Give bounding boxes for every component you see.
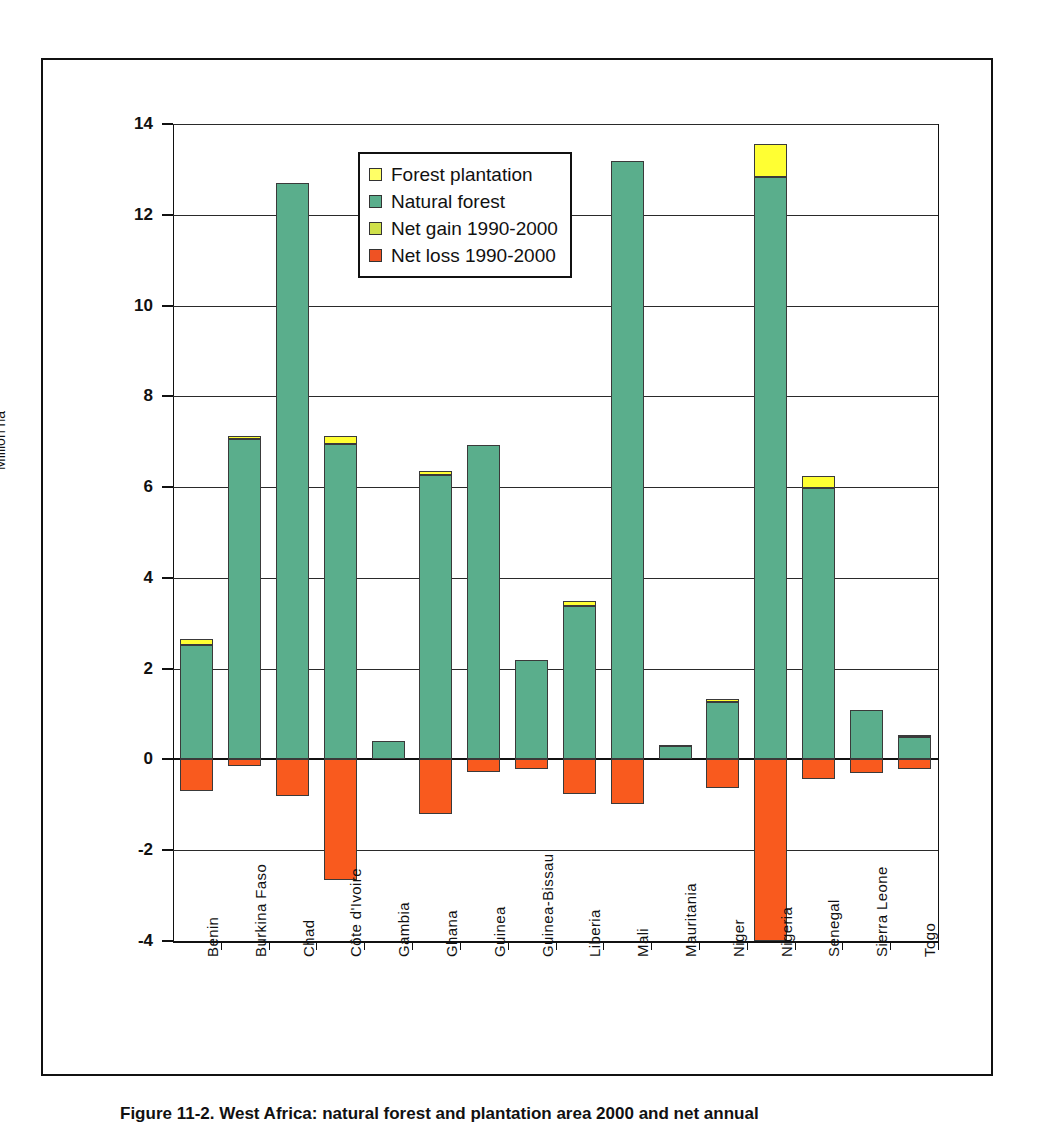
plot-right-border bbox=[938, 124, 939, 941]
x-tick-label: Ghana bbox=[443, 910, 460, 957]
bar-segment-natural-forest bbox=[372, 741, 405, 759]
y-tick-label: 8 bbox=[111, 387, 153, 404]
bar-segment-natural-forest bbox=[467, 445, 500, 760]
y-tick-label: 6 bbox=[111, 478, 153, 495]
legend-swatch-icon bbox=[369, 249, 382, 262]
bar-segment-net-loss bbox=[515, 759, 548, 768]
y-tick-label: 2 bbox=[111, 660, 153, 677]
x-tick-label: Benin bbox=[204, 917, 221, 957]
y-tick-mark bbox=[162, 395, 173, 397]
y-tick-label: 4 bbox=[111, 569, 153, 586]
x-tick-label: Liberia bbox=[586, 909, 603, 957]
bar-segment-natural-forest bbox=[419, 475, 452, 760]
x-tick-label: Côte d'Ivoire bbox=[347, 868, 364, 957]
y-tick-mark bbox=[162, 668, 173, 670]
bar-segment-net-loss bbox=[419, 759, 452, 813]
bar-segment-net-loss bbox=[276, 759, 309, 795]
bar-segment-net-loss bbox=[802, 759, 835, 779]
bar-segment-net-loss bbox=[898, 759, 931, 769]
bar-segment-net-loss bbox=[850, 759, 883, 772]
bar-segment-forest-plantation bbox=[802, 476, 835, 488]
legend-swatch-icon bbox=[369, 168, 382, 181]
chart-legend: Forest plantationNatural forestNet gain … bbox=[358, 152, 572, 278]
bar-segment-natural-forest bbox=[802, 488, 835, 759]
figure-container: -4-202468101214 BeninBurkina FasoChadCôt… bbox=[0, 0, 1037, 1124]
bar-segment-natural-forest bbox=[706, 702, 739, 760]
y-tick-label: 14 bbox=[111, 115, 153, 132]
y-tick-label: 12 bbox=[111, 206, 153, 223]
y-axis-title: Million ha bbox=[0, 411, 8, 470]
x-tick-mark bbox=[938, 941, 939, 950]
y-tick-mark bbox=[162, 758, 173, 760]
bar-segment-natural-forest bbox=[850, 710, 883, 759]
legend-item: Net loss 1990-2000 bbox=[369, 242, 558, 269]
bar-segment-forest-plantation bbox=[228, 436, 261, 439]
bar-segment-natural-forest bbox=[228, 439, 261, 759]
legend-swatch-icon bbox=[369, 222, 382, 235]
bar-segment-natural-forest bbox=[611, 161, 644, 759]
bar-segment-net-loss bbox=[611, 759, 644, 804]
legend-swatch-icon bbox=[369, 195, 382, 208]
bar-segment-forest-plantation bbox=[659, 745, 692, 747]
x-tick-label: Niger bbox=[730, 919, 747, 957]
bar-segment-forest-plantation bbox=[419, 471, 452, 475]
x-axis-line bbox=[173, 941, 938, 943]
x-tick-label: Nigeria bbox=[778, 907, 795, 957]
y-tick-label: 0 bbox=[111, 750, 153, 767]
x-tick-label: Gambia bbox=[395, 902, 412, 957]
bar-segment-natural-forest bbox=[898, 737, 931, 760]
x-tick-label: Chad bbox=[300, 920, 317, 957]
legend-label: Natural forest bbox=[391, 192, 505, 211]
y-tick-mark bbox=[162, 305, 173, 307]
x-tick-label: Sierra Leone bbox=[873, 866, 890, 957]
y-axis-line bbox=[173, 124, 174, 941]
legend-item: Natural forest bbox=[369, 188, 558, 215]
bar-segment-net-loss bbox=[706, 759, 739, 787]
y-tick-mark bbox=[162, 577, 173, 579]
legend-item: Forest plantation bbox=[369, 161, 558, 188]
x-tick-label: Togo bbox=[921, 923, 938, 957]
bar-segment-net-loss bbox=[228, 759, 261, 765]
bar-segment-forest-plantation bbox=[706, 699, 739, 702]
y-tick-label: -2 bbox=[111, 841, 153, 858]
bar-segment-natural-forest bbox=[276, 183, 309, 759]
bar-segment-net-loss bbox=[180, 759, 213, 791]
bar-segment-natural-forest bbox=[324, 444, 357, 759]
y-tick-label: 10 bbox=[111, 297, 153, 314]
y-tick-mark bbox=[162, 123, 173, 125]
legend-label: Net gain 1990-2000 bbox=[391, 219, 558, 238]
gridline bbox=[173, 124, 938, 125]
x-tick-label: Burkina Faso bbox=[252, 864, 269, 957]
bar-segment-natural-forest bbox=[180, 645, 213, 760]
y-tick-mark bbox=[162, 486, 173, 488]
bar-segment-net-loss bbox=[563, 759, 596, 793]
bar-segment-forest-plantation bbox=[180, 639, 213, 644]
bar-segment-forest-plantation bbox=[324, 436, 357, 444]
bar-segment-forest-plantation bbox=[898, 735, 931, 737]
legend-label: Forest plantation bbox=[391, 165, 533, 184]
gridline bbox=[173, 850, 938, 851]
bar-segment-natural-forest bbox=[563, 606, 596, 759]
legend-item: Net gain 1990-2000 bbox=[369, 215, 558, 242]
y-tick-mark bbox=[162, 849, 173, 851]
x-tick-label: Guinea bbox=[491, 906, 508, 957]
figure-caption: Figure 11-2. West Africa: natural forest… bbox=[120, 1104, 1000, 1124]
bar-segment-natural-forest bbox=[515, 660, 548, 760]
bar-segment-natural-forest bbox=[659, 746, 692, 759]
x-tick-label: Mauritania bbox=[682, 883, 699, 957]
bar-segment-forest-plantation bbox=[754, 144, 787, 177]
bar-segment-forest-plantation bbox=[563, 601, 596, 606]
x-tick-label: Senegal bbox=[825, 899, 842, 957]
bar-segment-natural-forest bbox=[754, 177, 787, 760]
y-tick-mark bbox=[162, 214, 173, 216]
legend-label: Net loss 1990-2000 bbox=[391, 246, 556, 265]
y-tick-label: -4 bbox=[111, 932, 153, 949]
bar-segment-net-loss bbox=[467, 759, 500, 771]
y-tick-mark bbox=[162, 940, 173, 942]
bar-segment-net-loss bbox=[324, 759, 357, 879]
